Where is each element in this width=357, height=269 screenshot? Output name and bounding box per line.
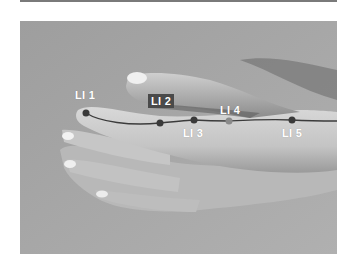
label-li2: LI 2 <box>148 94 174 108</box>
label-li3: LI 3 <box>183 127 203 139</box>
label-li1: LI 1 <box>75 89 95 101</box>
label-li4: LI 4 <box>220 104 240 116</box>
point-li5 <box>289 117 296 124</box>
point-li4 <box>226 118 233 125</box>
label-li5: LI 5 <box>282 127 302 139</box>
top-rule <box>20 0 337 2</box>
hand-photo: LI 1 LI 2 LI 3 LI 4 LI 5 <box>20 21 337 254</box>
point-li3 <box>191 117 198 124</box>
point-li2 <box>157 120 164 127</box>
point-li1 <box>83 110 90 117</box>
